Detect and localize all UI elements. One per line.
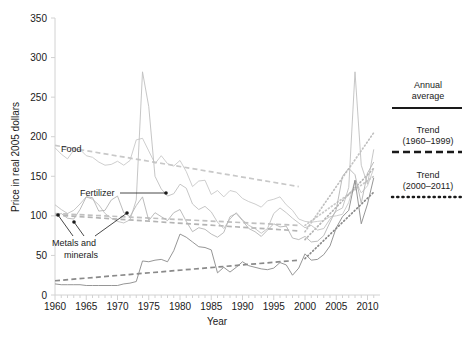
y-tick-label-100: 100 <box>30 210 47 221</box>
annotation-metals-label-line1: Metals and <box>52 238 96 248</box>
annotation-metals-label-line2: minerals <box>64 250 99 260</box>
x-tick-label-1990: 1990 <box>231 301 254 312</box>
annotation-fertilizer-label: Fertilizer <box>80 188 115 198</box>
y-axis-title: Price in real 2005 dollars <box>10 102 21 212</box>
y-tick-label-150: 150 <box>30 171 47 182</box>
x-tick-label-1960: 1960 <box>44 301 67 312</box>
y-tick-label-350: 350 <box>30 13 47 24</box>
annotation-metals-dot-1 <box>56 213 60 217</box>
x-tick-label-2005: 2005 <box>325 301 348 312</box>
x-tick-labels: 1960196519701975198019851990199520002005… <box>44 301 379 312</box>
legend-item-1-label-line1: Trend <box>416 125 439 135</box>
legend-item-0-label-line1: Annual <box>414 80 442 90</box>
legend-item-2-label-line1: Trend <box>416 170 439 180</box>
x-tick-label-2010: 2010 <box>356 301 379 312</box>
chart-background <box>0 0 464 338</box>
x-tick-label-1965: 1965 <box>75 301 98 312</box>
y-tick-label-300: 300 <box>30 52 47 63</box>
y-tick-label-50: 50 <box>36 250 48 261</box>
x-axis-title: Year <box>207 316 228 327</box>
y-tick-label-200: 200 <box>30 131 47 142</box>
x-tick-label-1985: 1985 <box>200 301 223 312</box>
legend-item-1-label-line2: (1960–1999) <box>402 136 453 146</box>
y-tick-label-250: 250 <box>30 92 47 103</box>
legend-item-0-label-line2: average <box>412 91 445 101</box>
x-tick-label-1975: 1975 <box>138 301 161 312</box>
x-tick-label-1970: 1970 <box>106 301 129 312</box>
annotation-metals-dot-3 <box>125 211 129 215</box>
annotation-food-label: Food <box>61 144 82 154</box>
x-tick-label-2000: 2000 <box>294 301 317 312</box>
chart-figure: 050100150200250300350 196019651970197519… <box>0 0 464 338</box>
annotation-fertilizer-dot <box>164 191 168 195</box>
commodity-price-line-chart: 050100150200250300350 196019651970197519… <box>0 0 464 338</box>
x-tick-label-1980: 1980 <box>169 301 192 312</box>
x-tick-label-1995: 1995 <box>263 301 286 312</box>
y-tick-label-0: 0 <box>41 290 47 301</box>
legend-item-2-label-line2: (2000–2011) <box>403 181 453 191</box>
annotation-metals-dot-2 <box>72 220 76 224</box>
